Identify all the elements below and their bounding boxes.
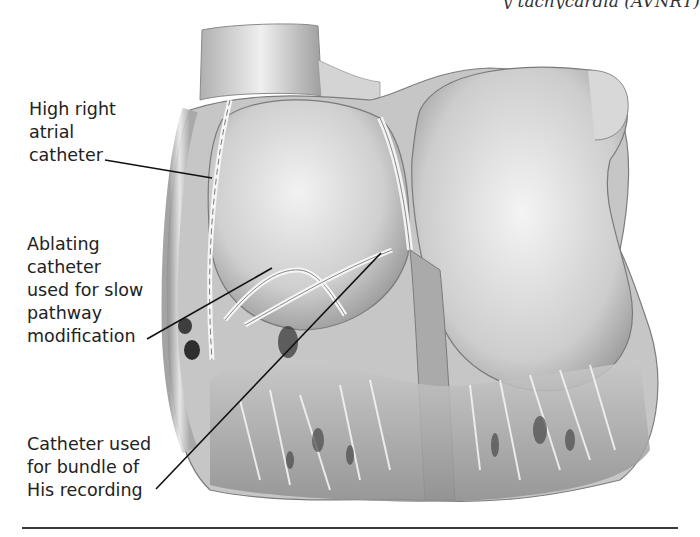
label-line: pathway: [27, 302, 143, 325]
label-line: Ablating: [27, 233, 143, 256]
vessel-opening: [184, 340, 200, 360]
label-line: High right: [29, 98, 116, 121]
label-line: catheter: [29, 144, 116, 167]
label-line: modification: [27, 325, 143, 348]
label-line: for bundle of: [27, 456, 151, 479]
label-line: used for slow: [27, 279, 143, 302]
right-atrium-cavity: [208, 100, 409, 330]
label-high-right-atrial-catheter: High right atrial catheter: [29, 98, 116, 167]
label-line: atrial: [29, 121, 116, 144]
label-ablating-catheter: Ablating catheter used for slow pathway …: [27, 233, 143, 348]
label-line: His recording: [27, 479, 151, 502]
label-line: catheter: [27, 256, 143, 279]
label-his-bundle-catheter: Catheter used for bundle of His recordin…: [27, 433, 151, 502]
superior-vena-cava: [200, 24, 322, 100]
label-line: Catheter used: [27, 433, 151, 456]
bottom-divider-rule: [22, 527, 678, 529]
